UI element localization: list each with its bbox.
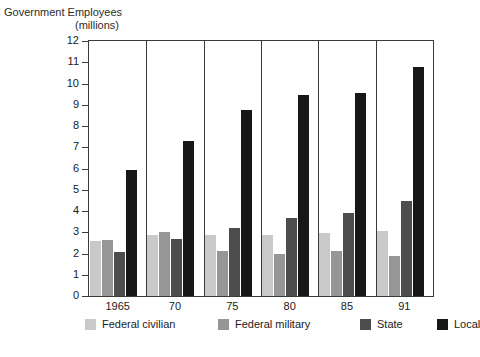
x-axis-tick-label: 91	[376, 299, 433, 313]
bar-group	[89, 41, 146, 296]
bar	[183, 141, 194, 296]
y-axis-tick-label: 9	[45, 98, 79, 111]
legend-swatch	[85, 319, 96, 330]
y-axis: 0123456789101112	[40, 40, 88, 297]
bar	[90, 241, 101, 296]
y-axis-tick-label: 0	[45, 289, 79, 302]
x-axis-tick-label: 80	[261, 299, 318, 313]
bar	[217, 251, 228, 296]
x-axis-tick-label: 75	[204, 299, 261, 313]
bar	[229, 228, 240, 296]
y-axis-tick-label: 6	[45, 162, 79, 175]
y-axis-tick-label: 4	[45, 204, 79, 217]
legend-label: State	[377, 318, 403, 331]
chart-title: Government Employees (millions)	[4, 6, 184, 32]
bar	[114, 252, 125, 296]
bar-group	[261, 41, 318, 296]
legend-item: Federal military	[218, 316, 310, 332]
y-axis-tick-label: 1	[45, 268, 79, 281]
group-separator	[376, 41, 377, 296]
y-axis-tick-label: 2	[45, 247, 79, 260]
bar-group	[376, 41, 433, 296]
group-separator	[261, 41, 262, 296]
group-separator	[204, 41, 205, 296]
y-axis-tick-label: 5	[45, 183, 79, 196]
legend-item: State	[360, 316, 403, 332]
bar	[171, 239, 182, 296]
chart-title-line-1: Government Employees	[4, 6, 184, 19]
bar-group	[146, 41, 203, 296]
legend-label: Local	[454, 318, 480, 331]
x-axis-tick-label: 85	[318, 299, 375, 313]
y-axis-tick-label: 8	[45, 119, 79, 132]
bar	[401, 201, 412, 296]
bar-group	[318, 41, 375, 296]
legend-label: Federal civilian	[102, 318, 175, 331]
x-axis-tick-label: 70	[146, 299, 203, 313]
y-axis-tick-label: 12	[45, 34, 79, 47]
legend-label: Federal military	[235, 318, 310, 331]
chart-title-line-2: (millions)	[4, 19, 184, 32]
group-separator	[318, 41, 319, 296]
bar	[205, 235, 216, 296]
bar	[377, 231, 388, 296]
y-axis-tick-label: 11	[45, 55, 79, 68]
bar	[355, 93, 366, 296]
x-axis-tick-label: 1965	[89, 299, 146, 313]
bars-area	[89, 41, 433, 296]
legend-item: Federal civilian	[85, 316, 175, 332]
bar	[343, 213, 354, 296]
y-axis-tick-label: 7	[45, 140, 79, 153]
y-axis-tick-label: 10	[45, 77, 79, 90]
bar	[241, 110, 252, 296]
bar	[319, 233, 330, 296]
bar	[413, 67, 424, 297]
bar	[102, 240, 113, 296]
chart-legend: Federal civilianFederal militaryStateLoc…	[85, 316, 445, 334]
bar	[331, 251, 342, 296]
bar	[286, 218, 297, 296]
bar	[389, 256, 400, 296]
legend-swatch	[360, 319, 371, 330]
y-axis-tick-label: 3	[45, 225, 79, 238]
legend-item: Local	[437, 316, 480, 332]
bar-group	[204, 41, 261, 296]
bar	[262, 235, 273, 296]
bar	[159, 232, 170, 296]
x-axis: 19657075808591	[89, 299, 433, 315]
group-separator	[146, 41, 147, 296]
bar	[147, 235, 158, 296]
bar	[298, 95, 309, 296]
bar	[274, 254, 285, 297]
legend-swatch	[218, 319, 229, 330]
legend-swatch	[437, 319, 448, 330]
bar	[126, 170, 137, 296]
